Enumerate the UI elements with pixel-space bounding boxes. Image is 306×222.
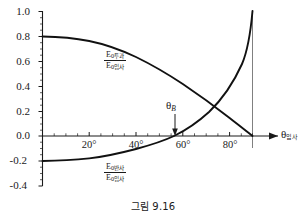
x-tick-label-20: 20° (74, 139, 104, 150)
y-tick-label-0.6: 0.6 (4, 55, 30, 67)
x-axis-label: θ입사 (281, 128, 298, 141)
y-tick-label-neg0.2: -0.2 (1, 154, 27, 166)
x-axis-arrowhead (269, 133, 278, 140)
y-tick-label-0.8: 0.8 (4, 30, 30, 42)
curve-label-transmitted-denominator: E0입사 (104, 61, 126, 70)
y-tick-label-1.0: 1.0 (4, 5, 30, 17)
curve-label-reflected-denominator: E0입사 (104, 173, 126, 182)
x-tick-label-60: 60° (168, 139, 198, 150)
brewster-angle-annotation: θB (166, 99, 176, 113)
figure-caption: 그림 9.16 (0, 198, 306, 213)
curve-label-reflected-numerator: E0반사 (104, 163, 126, 173)
figure-container: 1.0 0.8 0.6 0.4 0.2 0.0 -0.2 -0.4 20° 40… (0, 0, 306, 222)
y-tick-label-neg0.4: -0.4 (1, 179, 27, 191)
curve-label-transmitted: E0투과 E0입사 (104, 51, 126, 71)
plot-area (0, 0, 306, 222)
x-tick-label-40: 40° (121, 139, 151, 150)
x-tick-label-80: 80° (215, 139, 245, 150)
y-tick-label-0.4: 0.4 (4, 80, 30, 92)
y-tick-label-0.0: 0.0 (4, 129, 30, 141)
y-tick-label-0.2: 0.2 (4, 105, 30, 117)
curve-label-transmitted-numerator: E0투과 (104, 51, 126, 61)
curve-transmitted (43, 37, 253, 137)
curve-label-reflected: E0반사 E0입사 (104, 163, 126, 183)
